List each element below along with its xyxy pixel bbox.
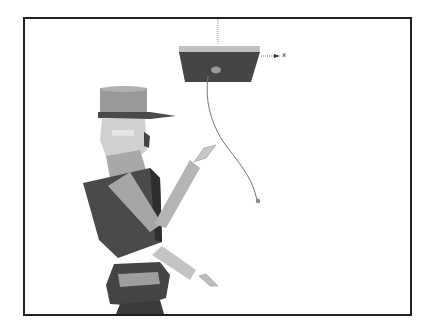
head (100, 119, 150, 156)
string-end-knob (256, 199, 260, 203)
hand-lower (199, 274, 218, 286)
hips (106, 262, 170, 306)
x-axis-label: x (282, 51, 286, 59)
forearm (154, 160, 200, 228)
hand-raised (194, 145, 216, 162)
control-bar (179, 46, 260, 82)
marionette-illustration (0, 0, 432, 332)
puppet-string (207, 76, 257, 200)
x-axis-indicator (261, 54, 280, 58)
hat (98, 86, 176, 119)
